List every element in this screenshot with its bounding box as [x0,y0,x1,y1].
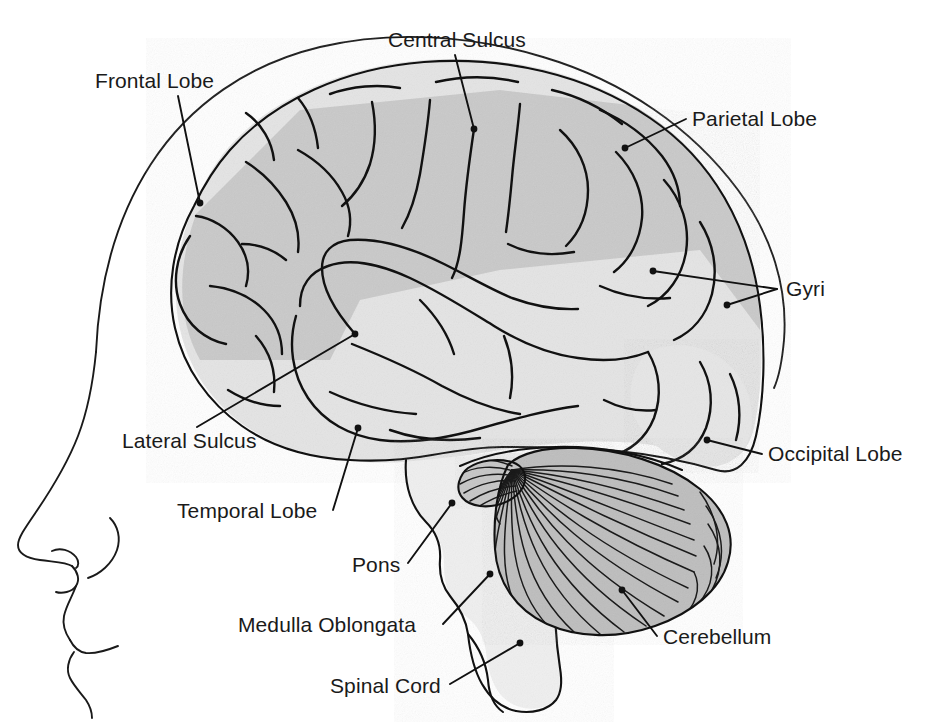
dot-cerebellum [619,587,626,594]
label-parietal-lobe: Parietal Lobe [692,107,817,130]
label-cerebellum: Cerebellum [663,625,771,648]
label-gyri: Gyri [786,277,825,300]
forehead-nose-profile [18,352,96,566]
dot-central-sulcus [471,126,478,133]
label-temporal-lobe: Temporal Lobe [177,499,317,522]
dot-gyri-upper [650,268,657,275]
dot-pons [449,500,456,507]
dot-parietal-lobe [622,145,629,152]
dot-lateral-sulcus [352,331,359,338]
diagram-canvas: Frontal Lobe Central Sulcus Parietal Lob… [0,0,930,724]
dot-occipital-lobe [704,437,711,444]
cerebrum-group [171,59,763,471]
cheek-curve [88,518,119,578]
label-frontal-lobe: Frontal Lobe [95,69,214,92]
dot-temporal-lobe [355,425,362,432]
nostril [52,549,78,568]
label-central-sulcus: Central Sulcus [388,28,526,51]
upper-lip [70,640,118,653]
leader-frontal-lobe [178,96,200,203]
label-pons: Pons [352,553,400,576]
philtrum-profile [63,586,76,640]
dot-gyri-lower [724,302,731,309]
dot-spinal-cord [517,640,524,647]
brain-anatomy-diagram: Frontal Lobe Central Sulcus Parietal Lob… [0,0,930,724]
lower-lip-chin [68,652,92,718]
dot-frontal-lobe [197,200,204,207]
label-occipital-lobe: Occipital Lobe [768,442,902,465]
label-spinal-cord: Spinal Cord [330,674,441,697]
dot-medulla-oblongata [487,571,494,578]
label-lateral-sulcus: Lateral Sulcus [122,429,256,452]
label-medulla-oblongata: Medulla Oblongata [238,613,416,636]
